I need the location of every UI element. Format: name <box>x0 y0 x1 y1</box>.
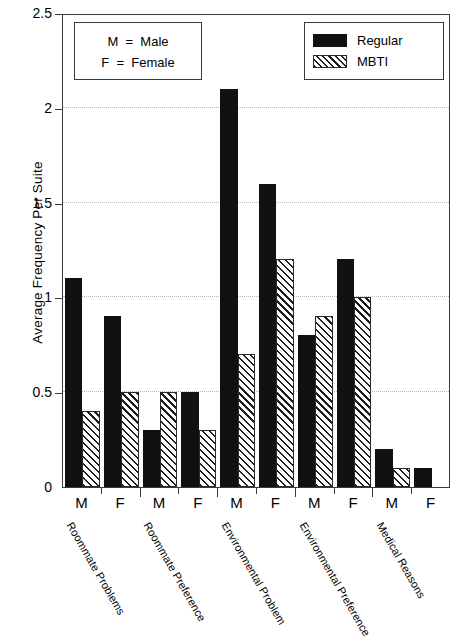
x-tick-label-male: M <box>144 494 174 511</box>
x-tick-label-female: F <box>105 494 135 511</box>
bar-regular <box>181 392 198 487</box>
y-tick-label: 1.5 <box>4 195 52 211</box>
x-tick-mark <box>411 488 412 494</box>
gridline <box>63 296 449 297</box>
bar-regular <box>337 259 354 487</box>
legend-abbreviation-box: M = Male F = Female <box>74 22 202 80</box>
x-tick-label-male: M <box>222 494 252 511</box>
bar-regular <box>375 449 392 487</box>
bar-regular <box>414 468 431 487</box>
legend-item-regular: Regular <box>313 30 443 51</box>
y-tick-label: 1 <box>4 289 52 305</box>
y-tick-mark <box>55 393 62 394</box>
y-tick-mark <box>55 298 62 299</box>
x-tick-label-male: M <box>377 494 407 511</box>
x-tick-label-female: F <box>260 494 290 511</box>
plot-area <box>62 14 450 488</box>
bar-regular <box>298 335 315 487</box>
bar-mbti <box>238 354 255 487</box>
y-tick-label: 0.5 <box>4 384 52 400</box>
bar-mbti <box>315 316 332 487</box>
x-tick-label-female: F <box>416 494 446 511</box>
bar-mbti <box>199 430 216 487</box>
x-tick-label-male: M <box>66 494 96 511</box>
bar-mbti <box>354 297 371 487</box>
bar-regular <box>220 89 237 487</box>
legend-swatch-mbti-icon <box>313 55 347 68</box>
x-tick-mark <box>256 488 257 494</box>
bar-mbti <box>160 392 177 487</box>
y-tick-label: 2 <box>4 100 52 116</box>
y-tick-mark <box>55 109 62 110</box>
x-tick-mark <box>372 488 373 497</box>
x-tick-label-female: F <box>183 494 213 511</box>
bar-regular <box>65 278 82 487</box>
x-tick-mark <box>334 488 335 494</box>
y-tick-label: 0 <box>4 479 52 495</box>
x-tick-mark <box>178 488 179 494</box>
legend-swatch-regular-icon <box>313 34 347 47</box>
note-line-female: F = Female <box>75 52 201 73</box>
x-tick-label-female: F <box>338 494 368 511</box>
x-tick-mark <box>101 488 102 494</box>
legend-label-mbti: MBTI <box>357 54 388 69</box>
bar-chart-figure: Average Frequency Per Suite 00.511.522.5… <box>0 0 461 638</box>
x-tick-label-male: M <box>299 494 329 511</box>
bar-regular <box>104 316 121 487</box>
bar-mbti <box>121 392 138 487</box>
gridline <box>63 202 449 203</box>
bar-mbti <box>276 259 293 487</box>
bar-regular <box>143 430 160 487</box>
bar-mbti <box>82 411 99 487</box>
bar-mbti <box>393 468 410 487</box>
y-tick-label: 2.5 <box>4 5 52 21</box>
y-tick-mark <box>55 204 62 205</box>
x-tick-mark <box>217 488 218 497</box>
chart-legend: Regular MBTI <box>304 22 444 80</box>
legend-label-regular: Regular <box>357 33 403 48</box>
x-tick-mark <box>140 488 141 497</box>
x-tick-mark <box>295 488 296 497</box>
y-tick-mark <box>55 14 62 15</box>
gridline <box>63 107 449 108</box>
legend-item-mbti: MBTI <box>313 51 443 72</box>
bar-regular <box>259 184 276 487</box>
note-line-male: M = Male <box>75 31 201 52</box>
